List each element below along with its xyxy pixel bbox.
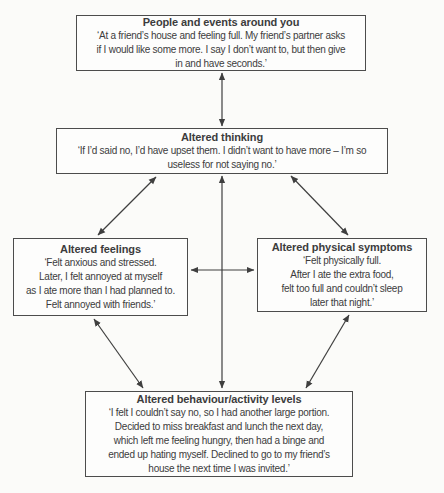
arrow-symptoms-behaviour <box>306 315 349 388</box>
box-altered-physical-symptoms-title: Altered physical symptoms <box>272 240 413 254</box>
box-altered-behaviour-activity-levels-title: Altered behaviour/activity levels <box>137 392 302 406</box>
arrow-thinking-feelings <box>98 177 156 235</box>
box-people-and-events: People and events around you ‘At a frien… <box>76 15 366 71</box>
box-people-and-events-quote: ‘At a friend’s house and feeling full. M… <box>97 29 346 71</box>
box-altered-physical-symptoms-quote: ‘Felt physically full. After I ate the e… <box>282 254 403 310</box>
box-altered-behaviour-activity-levels: Altered behaviour/activity levels ‘I fel… <box>85 391 353 477</box>
arrow-feelings-behaviour <box>94 319 143 388</box>
arrow-thinking-symptoms <box>291 176 348 235</box>
five-areas-diagram: People and events around you ‘At a frien… <box>0 0 444 493</box>
box-altered-thinking: Altered thinking ‘If I’d said no, I’d ha… <box>56 128 388 174</box>
box-altered-behaviour-activity-levels-quote: ‘I felt I couldn’t say no, so I had anot… <box>108 406 330 476</box>
box-altered-feelings-quote: ‘Felt anxious and stressed. Later, I fel… <box>26 256 175 312</box>
box-altered-feelings: Altered feelings ‘Felt anxious and stres… <box>13 238 188 316</box>
box-altered-physical-symptoms: Altered physical symptoms ‘Felt physical… <box>257 238 427 312</box>
box-people-and-events-title: People and events around you <box>143 15 300 29</box>
box-altered-thinking-title: Altered thinking <box>181 130 263 144</box>
box-altered-thinking-quote: ‘If I’d said no, I’d have upset them. I … <box>78 144 367 172</box>
box-altered-feelings-title: Altered feelings <box>60 242 141 256</box>
